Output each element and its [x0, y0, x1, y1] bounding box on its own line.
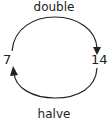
halve-label: halve: [0, 108, 108, 120]
double-label: double: [0, 1, 108, 13]
double-arrow: [12, 17, 97, 51]
value-fourteen: 14: [91, 54, 108, 66]
halve-arrowhead-icon: [10, 66, 18, 76]
value-seven: 7: [3, 54, 11, 66]
halve-arrow: [14, 68, 97, 98]
